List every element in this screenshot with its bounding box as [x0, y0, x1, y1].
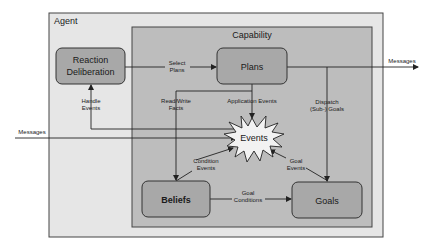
read-write-label-2: Facts — [169, 105, 184, 111]
reaction-deliberation-node: Reaction Deliberation — [56, 48, 125, 84]
beliefs-label: Beliefs — [161, 195, 191, 205]
agent-label: Agent — [54, 16, 78, 26]
plans-label: Plans — [241, 62, 264, 72]
goal-events-label-2: Events — [287, 165, 305, 171]
messages-in-label: Messages — [18, 129, 45, 135]
handle-events-label-2: Events — [82, 105, 100, 111]
dispatch-label-2: (Sub-) Goals — [310, 106, 344, 112]
goals-label: Goals — [315, 196, 339, 206]
goal-events-label-1: Goal — [290, 158, 303, 164]
goal-conditions-label-2: Conditions — [234, 197, 262, 203]
application-events-label: Application Events — [227, 98, 276, 104]
messages-out-label: Messages — [388, 58, 415, 64]
read-write-label-1: Read/Write — [161, 98, 192, 104]
condition-events-label-1: Condition — [193, 158, 218, 164]
capability-label: Capability — [232, 30, 272, 40]
dispatch-label-1: Dispatch — [315, 99, 338, 105]
goal-conditions-label-1: Goal — [242, 190, 255, 196]
agent-architecture-diagram: Agent Capability Reaction De — [0, 0, 433, 252]
beliefs-node: Beliefs — [142, 181, 210, 217]
plans-node: Plans — [217, 48, 287, 84]
handle-events-label-1: Handle — [81, 98, 101, 104]
goals-node: Goals — [292, 182, 362, 218]
condition-events-label-2: Events — [197, 165, 215, 171]
deliberation-label: Deliberation — [66, 67, 114, 77]
select-plans-label-2: Plans — [169, 67, 184, 73]
reaction-label: Reaction — [73, 55, 109, 65]
events-label: Events — [240, 133, 268, 143]
select-plans-label-1: Select — [169, 60, 186, 66]
